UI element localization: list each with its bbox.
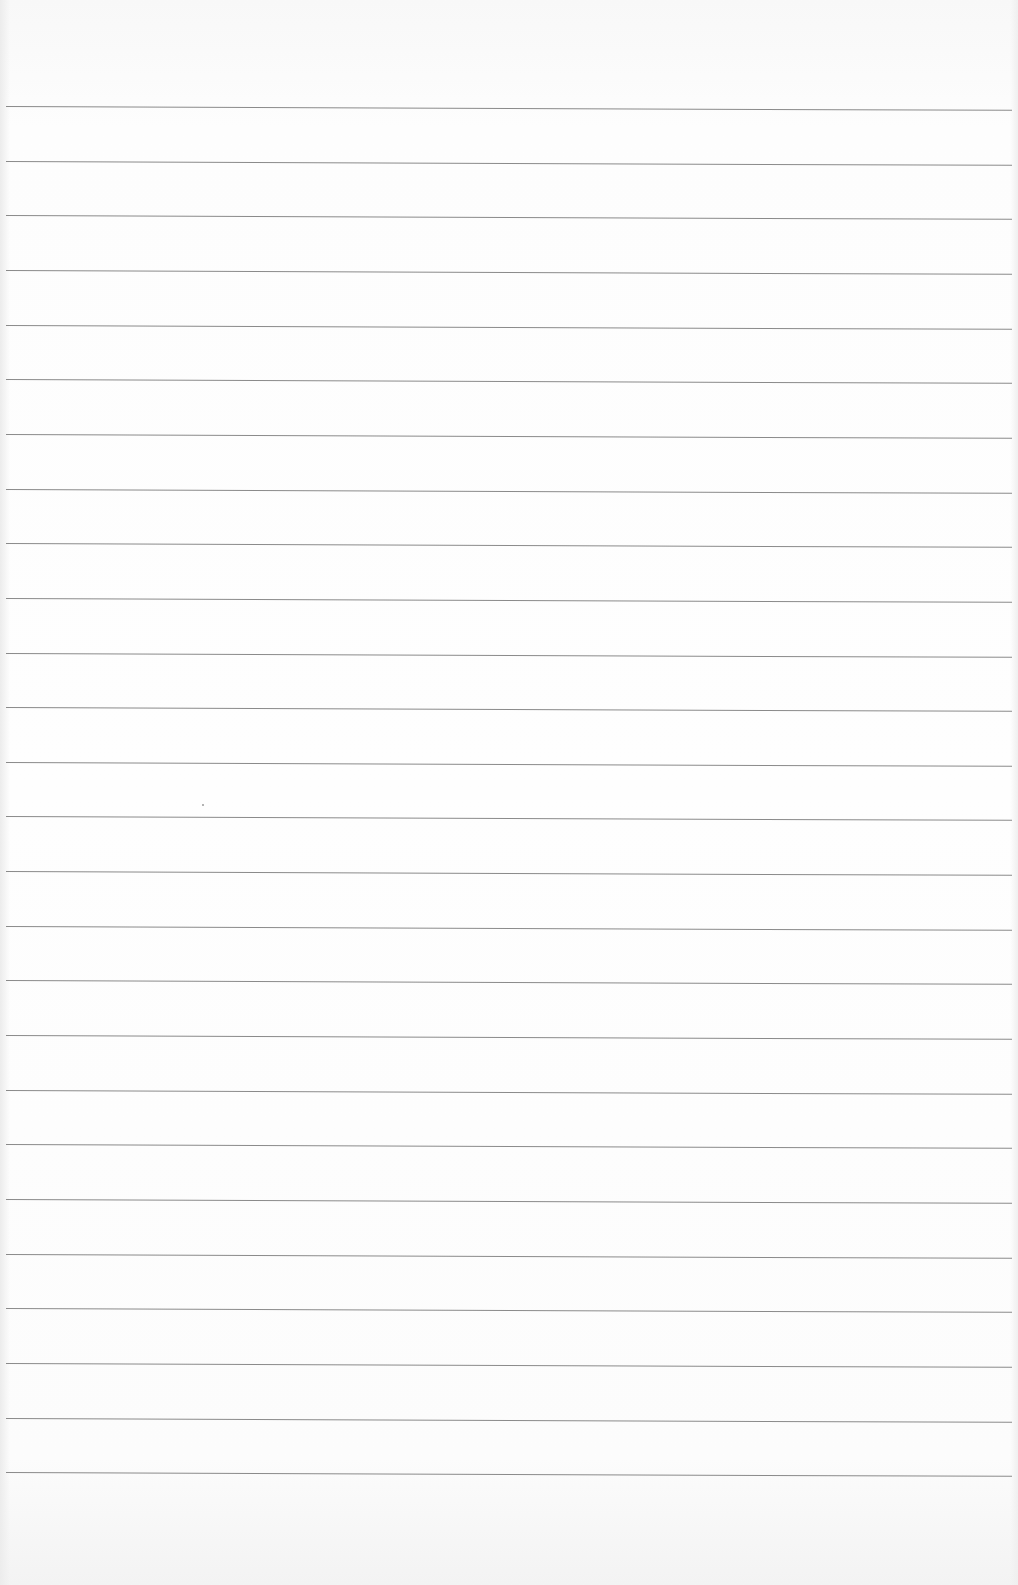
ruled-line — [6, 1308, 1012, 1313]
ruled-line — [6, 1199, 1012, 1204]
ruled-line — [6, 980, 1012, 985]
ruled-line — [6, 1363, 1012, 1368]
paper-right-edge-shadow — [1010, 0, 1018, 1585]
ruled-line — [6, 270, 1012, 275]
ruled-line — [6, 1254, 1012, 1259]
ruled-line — [6, 707, 1012, 712]
ruled-line — [6, 325, 1012, 330]
ruled-line — [6, 598, 1012, 603]
paper-speck — [202, 804, 204, 806]
ruled-line — [6, 1144, 1012, 1149]
ruled-line — [6, 816, 1012, 821]
ruled-line — [6, 161, 1012, 166]
ruled-line — [6, 1090, 1012, 1095]
ruled-line — [6, 1418, 1012, 1423]
ruled-line — [6, 1472, 1012, 1477]
ruled-line — [6, 106, 1012, 111]
ruled-line — [6, 379, 1012, 384]
ruled-line — [6, 871, 1012, 876]
ruled-line — [6, 926, 1012, 931]
ruled-line — [6, 1035, 1012, 1040]
paper-left-edge-shadow — [0, 0, 10, 1585]
ruled-line — [6, 434, 1012, 439]
ruled-line — [6, 653, 1012, 658]
ruled-line — [6, 543, 1012, 548]
ruled-line — [6, 215, 1012, 220]
ruled-line — [6, 489, 1012, 494]
ruled-line — [6, 762, 1012, 767]
ruled-paper-page — [0, 0, 1018, 1585]
